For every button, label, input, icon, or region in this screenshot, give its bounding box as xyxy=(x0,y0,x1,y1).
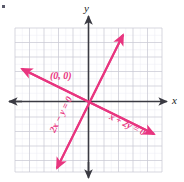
coordinate-plane-figure xyxy=(0,0,184,182)
axes xyxy=(9,16,167,178)
